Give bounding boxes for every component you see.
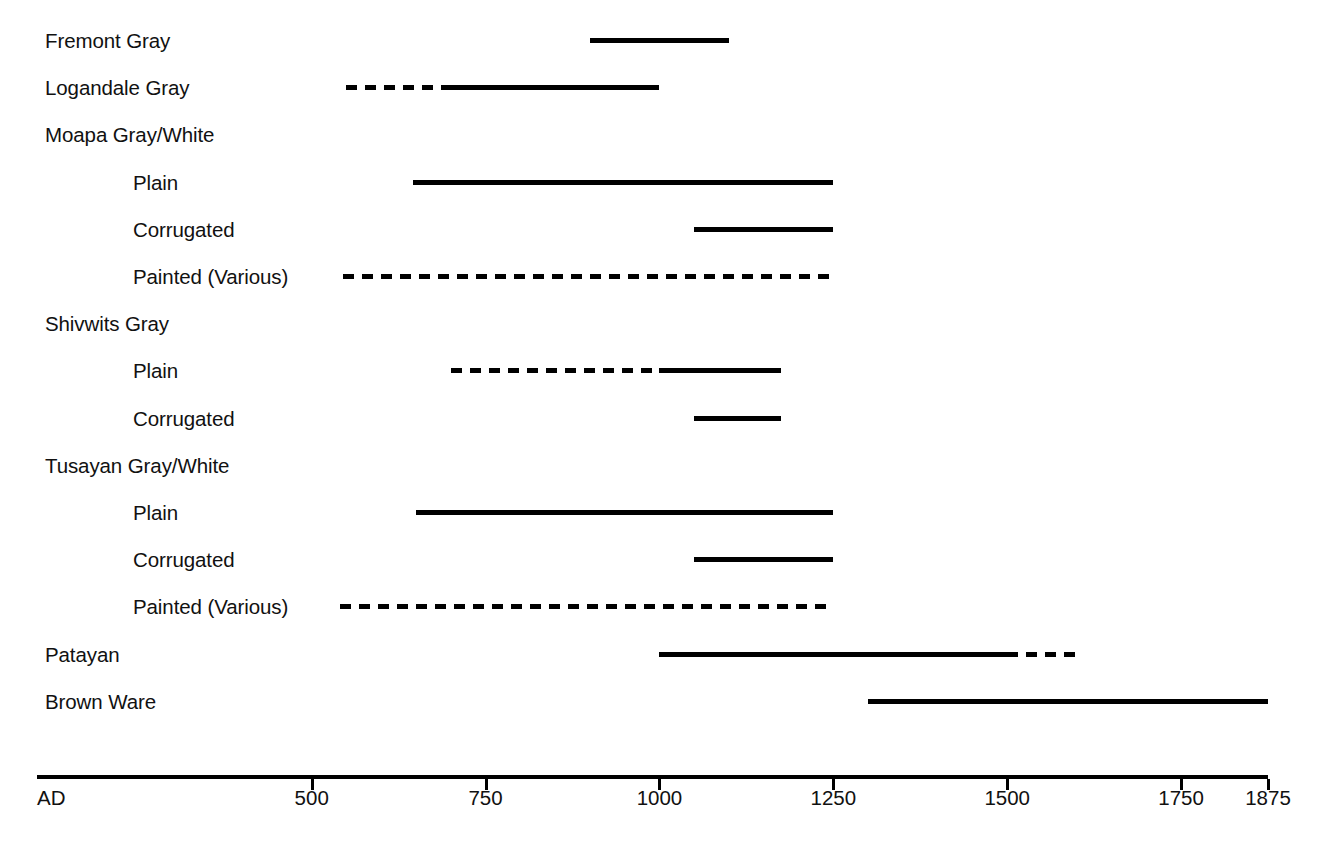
timeline-segment-dashed (451, 368, 660, 373)
timeline-segment-solid (451, 85, 660, 90)
axis-tick-label: 1250 (811, 788, 857, 809)
axis-tick-label: 1500 (984, 788, 1030, 809)
timeline-segment-solid (413, 180, 834, 185)
axis-tick-label: 500 (295, 788, 329, 809)
axis-tick-label: 1875 (1245, 788, 1291, 809)
timeline-segment-dashed (343, 274, 833, 279)
timeline-segment-solid (659, 368, 781, 373)
timeline-segment-solid (659, 652, 1007, 657)
timeline-segment-solid (694, 416, 781, 421)
timeline-bar (0, 652, 1335, 666)
axis-line (37, 775, 1268, 779)
timeline-bar (0, 557, 1335, 571)
timeline-segment-dashed (340, 604, 834, 609)
timeline-segment-solid (868, 699, 1268, 704)
row-label: Tusayan Gray/White (45, 456, 229, 477)
timeline-segment-solid (416, 510, 833, 515)
timeline-bar (0, 227, 1335, 241)
timeline-bar (0, 368, 1335, 382)
timeline-bar (0, 510, 1335, 524)
axis-tick-label: 1000 (637, 788, 683, 809)
ceramic-chronology-chart: Fremont GrayLogandale GrayMoapa Gray/Whi… (0, 0, 1335, 847)
timeline-segment-solid (694, 227, 833, 232)
timeline-bar (0, 38, 1335, 52)
row-label: Moapa Gray/White (45, 125, 214, 146)
axis-tick-label: 1750 (1158, 788, 1204, 809)
timeline-bar (0, 604, 1335, 618)
timeline-bar (0, 274, 1335, 288)
timeline-segment-dashed (1007, 652, 1077, 657)
axis-origin-label: AD (37, 788, 65, 809)
axis-tick-label: 750 (468, 788, 502, 809)
row-label: Shivwits Gray (45, 314, 169, 335)
timeline-bar (0, 180, 1335, 194)
timeline-bar (0, 85, 1335, 99)
timeline-bar (0, 416, 1335, 430)
timeline-segment-solid (590, 38, 729, 43)
timeline-segment-dashed (346, 85, 450, 90)
timeline-bar (0, 699, 1335, 713)
timeline-segment-solid (694, 557, 833, 562)
